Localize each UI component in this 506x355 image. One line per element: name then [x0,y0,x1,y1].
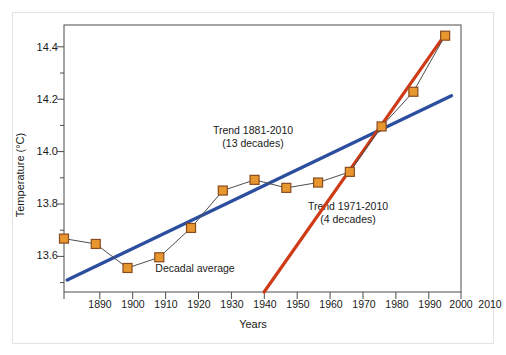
data-point-marker [345,167,354,176]
x-axis-major-ticks [100,292,461,299]
data-point-marker [250,175,259,184]
data-point-marker [155,253,164,262]
data-point-marker [441,31,450,40]
data-point-marker [60,234,69,243]
decadal-average-line [64,36,445,268]
plot-area [0,0,506,355]
data-point-marker [187,223,196,232]
y-axis-minor-ticks [60,73,64,283]
chart-figure: Temperature (°C) 14.4 14.2 14.0 13.8 13.… [0,0,506,355]
data-point-marker [91,239,100,248]
y-axis-major-ticks [57,47,64,257]
blue-trend-line-1881-2010 [67,96,451,280]
decadal-average-markers [60,31,450,272]
data-point-marker [314,178,323,187]
red-trend-line-1971-2010 [264,34,445,292]
data-point-marker [282,183,291,192]
data-point-marker [409,87,418,96]
data-point-marker [218,186,227,195]
data-point-marker [123,263,132,272]
data-point-marker [377,122,386,131]
